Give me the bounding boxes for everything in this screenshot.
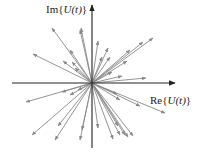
phasor-arrow — [58, 83, 92, 126]
real-axis-label: Re{U(t)} — [150, 95, 191, 106]
phasor-arrow — [92, 50, 130, 83]
phasor-arrows — [26, 28, 165, 140]
phasor-diagram — [0, 0, 217, 156]
phasor-arrow — [33, 54, 92, 83]
phasor-arrow — [92, 38, 153, 83]
imaginary-axis-label: Im{U(t)} — [46, 4, 87, 15]
